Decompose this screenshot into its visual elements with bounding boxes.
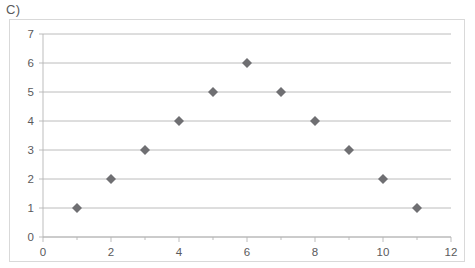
x-axis-tick-labels: 024681012 [40, 246, 458, 258]
y-tick-label-7: 7 [28, 28, 34, 40]
x-tick-label-8: 8 [312, 246, 318, 258]
y-tick-label-4: 4 [28, 115, 35, 127]
y-tick-label-5: 5 [28, 86, 34, 98]
data-point-5-5 [208, 87, 218, 97]
data-point-1-1 [72, 203, 82, 213]
x-tick-label-4: 4 [176, 246, 183, 258]
y-tick-label-1: 1 [28, 202, 34, 214]
data-point-2-2 [106, 174, 116, 184]
x-tick-label-6: 6 [244, 246, 250, 258]
y-tick-label-2: 2 [28, 173, 34, 185]
x-tick-label-0: 0 [40, 246, 46, 258]
y-tick-label-6: 6 [28, 57, 34, 69]
data-point-6-6 [242, 58, 252, 68]
plot-area: 01234567 024681012 [10, 20, 466, 263]
data-point-4-4 [174, 116, 184, 126]
data-point-9-3 [344, 145, 354, 155]
scatter-plot: 01234567 024681012 [10, 20, 466, 263]
data-point-8-4 [310, 116, 320, 126]
y-tick-label-0: 0 [28, 231, 34, 243]
data-point-7-5 [276, 87, 286, 97]
data-point-3-3 [140, 145, 150, 155]
x-tick-label-12: 12 [445, 246, 458, 258]
data-point-11-1 [412, 203, 422, 213]
y-axis-ticks [39, 34, 43, 237]
panel-label: C) [6, 2, 20, 18]
data-points [72, 58, 422, 213]
y-axis-tick-labels: 01234567 [28, 28, 35, 243]
chart-screenshot: C) 01234567 024681012 [0, 0, 475, 268]
x-tick-label-10: 10 [377, 246, 390, 258]
y-tick-label-3: 3 [28, 144, 34, 156]
x-tick-label-2: 2 [108, 246, 114, 258]
chart-frame: 01234567 024681012 [9, 19, 465, 262]
data-point-10-2 [378, 174, 388, 184]
x-axis-ticks [43, 237, 451, 242]
